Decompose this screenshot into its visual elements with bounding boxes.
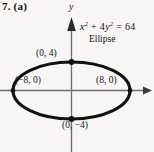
equation-operator: + 4 (88, 21, 105, 32)
y-axis-label: y (69, 2, 73, 12)
vertex-dot-top (69, 59, 75, 65)
point-label-left-vertex: (−8, 0) (15, 76, 41, 86)
point-label-right-vertex: (8, 0) (96, 76, 117, 86)
curve-name-label: Ellipse (89, 35, 115, 45)
vertex-dot-right (128, 88, 133, 93)
y-axis-arrowhead (67, 17, 76, 31)
ellipse-figure: 7. (a) y x2 + 4y2 = 64 Ellipse (0, 4) (−… (0, 0, 154, 152)
x-axis-arrowhead (143, 87, 152, 95)
vertex-dot-left (11, 88, 16, 93)
equation-right-side: = 64 (113, 21, 135, 32)
point-label-bottom-vertex: (0, −4) (62, 121, 88, 131)
point-label-top-vertex: (0, 4) (36, 49, 57, 59)
problem-number: 7. (a) (2, 1, 27, 12)
equation-label: x2 + 4y2 = 64 (80, 22, 136, 32)
